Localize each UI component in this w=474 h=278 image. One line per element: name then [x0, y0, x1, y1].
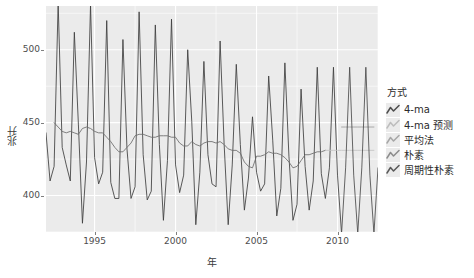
y-tick-mark	[41, 123, 44, 124]
x-tick-label: 2000	[164, 236, 187, 246]
x-axis-title: 年	[46, 254, 378, 269]
plot-svg	[46, 6, 378, 232]
y-tick-mark	[41, 50, 44, 51]
plot-panel	[46, 6, 378, 232]
x-tick-mark	[176, 232, 177, 235]
x-tick-label: 1995	[83, 236, 106, 246]
legend-item-4[interactable]: 朴素	[386, 147, 474, 162]
x-tick-mark	[257, 232, 258, 235]
x-tick-label: 2005	[245, 236, 268, 246]
x-tick-label: 2010	[326, 236, 349, 246]
legend-item-label: 周期性朴素	[404, 162, 454, 177]
legend-key-icon	[386, 103, 400, 117]
y-tick-label: 450	[0, 117, 40, 127]
legend-key-icon	[386, 118, 400, 132]
legend-item-1[interactable]: 4-ma	[386, 102, 474, 117]
y-tick-label: 500	[0, 44, 40, 54]
y-tick-label: 400	[0, 190, 40, 200]
legend-item-label: 4-ma	[404, 104, 430, 115]
legend-key-icon	[386, 148, 400, 162]
legend-item-2[interactable]: 4-ma 预测	[386, 117, 474, 132]
legend-key-icon	[386, 163, 400, 177]
x-tick-mark	[95, 232, 96, 235]
y-axis-ticks: 400450500	[0, 0, 40, 278]
series-周期性朴素	[342, 67, 378, 232]
x-tick-mark	[338, 232, 339, 235]
legend-item-label: 4-ma 预测	[404, 117, 453, 132]
y-tick-mark	[41, 196, 44, 197]
legend-item-label: 朴素	[404, 147, 424, 162]
legend-key-icon	[386, 133, 400, 147]
legend-item-3[interactable]: 平均法	[386, 132, 474, 147]
legend-item-5[interactable]: 周期性朴素	[386, 162, 474, 177]
legend-entries: 4-ma4-ma 预测平均法朴素周期性朴素	[386, 102, 474, 177]
legend-item-label: 平均法	[404, 132, 434, 147]
legend: 方式 4-ma4-ma 预测平均法朴素周期性朴素	[386, 84, 474, 177]
legend-title: 方式	[387, 84, 474, 99]
chart-root: 兆升 400450500 年 方式 4-ma4-ma 预测平均法朴素周期性朴素 …	[0, 0, 474, 278]
